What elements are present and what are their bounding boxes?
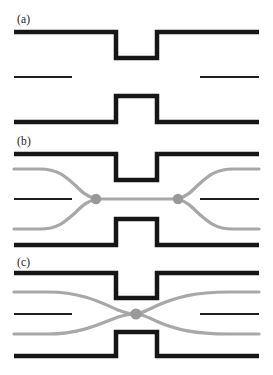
figure-container: (a) (b) [0,0,273,375]
panel-c-top-wall [14,273,259,298]
panel-b: (b) [0,130,273,252]
panel-b-top-wall [14,154,259,180]
panel-a-diagram [0,0,273,130]
panel-a-bottom-wall [14,96,259,122]
panel-c-center-crossing-point [130,308,141,319]
panel-a-top-wall [14,32,259,58]
panel-c: (c) [0,252,273,375]
panel-b-right-stagnation-point [173,194,183,204]
panel-b-diagram [0,130,273,252]
panel-c-diagram [0,252,273,375]
panel-b-lower-left-separatrix [14,199,96,229]
panel-b-left-stagnation-point [91,194,101,204]
panel-b-lower-right-separatrix [178,199,259,229]
panel-b-bottom-wall [14,219,259,245]
panel-a: (a) [0,0,273,130]
panel-b-upper-right-separatrix [178,169,259,199]
panel-c-bottom-wall [14,332,259,356]
panel-b-upper-left-separatrix [14,169,96,199]
